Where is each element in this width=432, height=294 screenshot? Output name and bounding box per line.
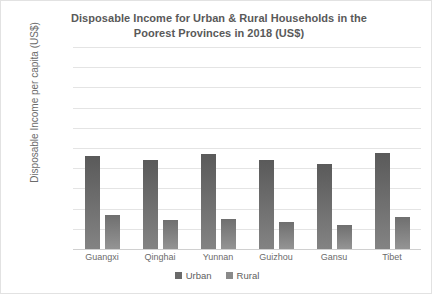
bar-rural-guangxi[interactable] bbox=[105, 215, 120, 249]
bar-urban-tibet[interactable] bbox=[375, 153, 390, 249]
x-axis-label-yunnan: Yunnan bbox=[189, 252, 247, 262]
bars-layer bbox=[73, 47, 421, 249]
legend-swatch-icon bbox=[226, 272, 233, 279]
legend-swatch-icon bbox=[175, 272, 182, 279]
chart-container: Disposable Income for Urban & Rural Hous… bbox=[0, 0, 432, 294]
bar-group bbox=[247, 47, 305, 249]
chart-title: Disposable Income for Urban & Rural Hous… bbox=[57, 11, 381, 41]
bar-group bbox=[131, 47, 189, 249]
x-axis-label-gansu: Gansu bbox=[305, 252, 363, 262]
gridline bbox=[73, 249, 421, 250]
plot-area: 10,0009,0008,0007,0006,0005,0004,0003,00… bbox=[73, 47, 421, 249]
y-axis-title: Disposable Income per capita (US$) bbox=[29, 8, 40, 198]
legend-item-rural[interactable]: Rural bbox=[226, 270, 260, 281]
legend-label: Rural bbox=[237, 270, 260, 281]
bar-rural-tibet[interactable] bbox=[395, 217, 410, 249]
bar-urban-guangxi[interactable] bbox=[85, 156, 100, 249]
x-axis-label-qinghai: Qinghai bbox=[131, 252, 189, 262]
bar-group bbox=[363, 47, 421, 249]
x-axis-labels: GuangxiQinghaiYunnanGuizhouGansuTibet bbox=[73, 252, 421, 262]
bar-rural-yunnan[interactable] bbox=[221, 219, 236, 249]
legend-item-urban[interactable]: Urban bbox=[175, 270, 212, 281]
bar-urban-gansu[interactable] bbox=[317, 164, 332, 249]
bar-rural-guizhou[interactable] bbox=[279, 222, 294, 249]
chart-title-line-1: Disposable Income for Urban & Rural Hous… bbox=[71, 12, 367, 24]
bar-rural-qinghai[interactable] bbox=[163, 220, 178, 249]
bar-group bbox=[305, 47, 363, 249]
legend-label: Urban bbox=[186, 270, 212, 281]
bar-urban-guizhou[interactable] bbox=[259, 160, 274, 249]
bar-urban-qinghai[interactable] bbox=[143, 160, 158, 249]
chart-title-line-2: Poorest Provinces in 2018 (US$) bbox=[134, 27, 304, 39]
x-axis-label-guizhou: Guizhou bbox=[247, 252, 305, 262]
bar-group bbox=[73, 47, 131, 249]
chart-legend: UrbanRural bbox=[1, 270, 432, 281]
bar-urban-yunnan[interactable] bbox=[201, 154, 216, 249]
bar-rural-gansu[interactable] bbox=[337, 225, 352, 249]
bar-group bbox=[189, 47, 247, 249]
x-axis-label-tibet: Tibet bbox=[363, 252, 421, 262]
x-axis-label-guangxi: Guangxi bbox=[73, 252, 131, 262]
